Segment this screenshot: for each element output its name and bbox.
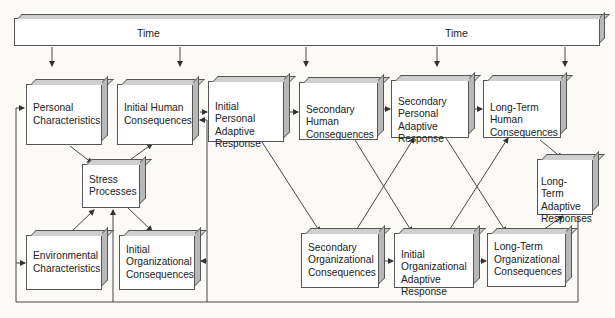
box-label: Stress Processes: [89, 174, 137, 199]
box-label: Environmental Characteristics: [33, 250, 100, 275]
stress-process-diagram: Time Time Personal Characteristics Initi…: [0, 0, 615, 318]
box-initial-organizational-adaptive-response: Initial Organizational Adaptive Response: [394, 233, 474, 288]
box-label: Initial Human Consequences: [124, 102, 192, 127]
box-stress-processes: Stress Processes: [82, 164, 140, 208]
time-axis-bar: Time Time: [14, 18, 600, 46]
box-secondary-personal-adaptive-response: Secondary Personal Adaptive Response: [391, 80, 469, 138]
box-secondary-human-consequences: Secondary Human Consequences: [299, 82, 378, 140]
box-initial-personal-adaptive-response: Initial Personal Adaptive Response: [208, 81, 284, 142]
box-secondary-organizational-consequences: Secondary Organizational Consequences: [301, 233, 379, 288]
box-label: Secondary Personal Adaptive Response: [398, 96, 464, 146]
box-long-term-organizational-consequences: Long-Term Organizational Consequences: [487, 233, 566, 287]
box-label: Initial Organizational Consequences: [126, 244, 194, 282]
box-label: Secondary Human Consequences: [306, 104, 373, 142]
box-label: Initial Personal Adaptive Response: [215, 101, 279, 151]
box-label: Long-Term Human Consequences: [490, 102, 556, 140]
box-label: Initial Organizational Adaptive Response: [401, 249, 469, 299]
box-label: Secondary Organizational Consequences: [308, 242, 376, 280]
box-label: Long- Term Adaptive Responses: [541, 176, 590, 226]
box-environmental-characteristics: Environmental Characteristics: [26, 235, 102, 290]
box-label: Personal Characteristics: [33, 102, 100, 127]
box-initial-organizational-consequences: Initial Organizational Consequences: [119, 235, 195, 290]
box-label: Long-Term Organizational Consequences: [494, 241, 562, 279]
box-long-term-adaptive-responses: Long- Term Adaptive Responses: [537, 159, 593, 215]
time-label-left: Time: [137, 27, 160, 39]
time-label-right: Time: [445, 27, 468, 39]
box-long-term-human-consequences: Long-Term Human Consequences: [483, 80, 561, 138]
box-personal-characteristics: Personal Characteristics: [26, 84, 102, 145]
box-initial-human-consequences: Initial Human Consequences: [117, 84, 193, 145]
